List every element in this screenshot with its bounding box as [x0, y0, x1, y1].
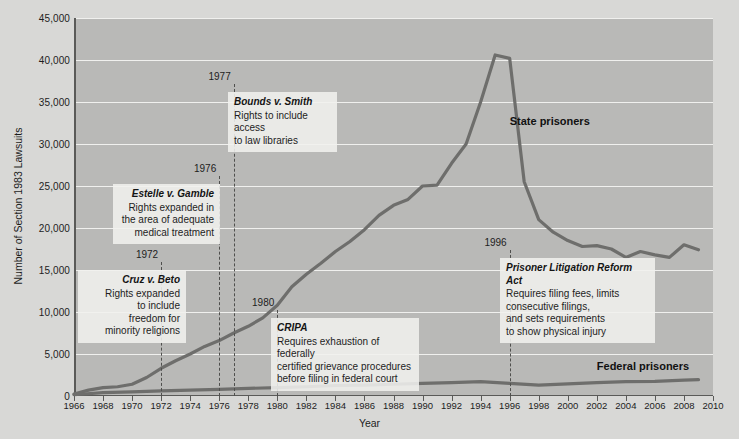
x-axis-tick-label: 1998 [528, 400, 549, 411]
event-callout-body-line: to include [84, 300, 180, 313]
x-axis-tick [713, 396, 714, 401]
y-axis-tick-label: 20,000 [39, 223, 70, 234]
x-axis-tick-label: 1982 [296, 400, 317, 411]
x-axis-tick-label: 1980 [267, 400, 288, 411]
x-axis-tick-label: 1994 [470, 400, 491, 411]
x-axis-tick [655, 396, 656, 401]
y-axis-tick-label: 10,000 [39, 307, 70, 318]
x-axis-tick-label: 2000 [557, 400, 578, 411]
x-axis-title: Year [0, 417, 739, 429]
x-axis-tick [248, 396, 249, 401]
x-axis-tick [626, 396, 627, 401]
y-axis-title: Number of Section 1983 Lawsuits [12, 106, 24, 306]
y-axis-tick-label: 30,000 [39, 139, 70, 150]
x-axis-tick [481, 396, 482, 401]
x-axis-tick [452, 396, 453, 401]
x-axis-tick [364, 396, 365, 401]
x-axis-tick [132, 396, 133, 401]
event-callout-body-line: to law libraries [234, 135, 331, 148]
event-callout-body-line: to show physical injury [506, 326, 649, 339]
x-axis-tick [161, 396, 162, 401]
event-callout-body-line: minority religions [84, 325, 180, 338]
event-callout-body-line: consecutive filings, [506, 301, 649, 314]
event-callout-body-line: Requires exhaustion of federally [277, 336, 413, 361]
event-callout-body-line: Requires filing fees, limits [506, 288, 649, 301]
x-axis-tick [190, 396, 191, 401]
x-axis-tick [394, 396, 395, 401]
chart-container: 05,00010,00015,00020,00025,00030,00035,0… [0, 0, 739, 439]
event-callout-body-line: freedom for [84, 313, 180, 326]
event-callout-body-line: certified grievance procedures [277, 361, 413, 374]
event-callout-body-line: Rights to include access [234, 110, 331, 135]
event-year-label: 1980 [252, 297, 277, 308]
x-axis-tick-label: 2004 [615, 400, 636, 411]
event-callout-body-line: medical treatment [119, 227, 214, 240]
x-axis-tick-label: 1970 [122, 400, 143, 411]
event-callout-title: Cruz v. Beto [84, 274, 180, 287]
event-callout-body-line: the area of adequate [119, 214, 214, 227]
event-year-label: 1976 [194, 163, 219, 174]
x-axis-tick-label: 1974 [180, 400, 201, 411]
x-axis-tick [423, 396, 424, 401]
y-axis-tick-label: 25,000 [39, 181, 70, 192]
event-callout: Cruz v. BetoRights expandedto includefre… [78, 270, 186, 343]
event-callout-title: Prisoner Litigation Reform Act [506, 262, 649, 287]
event-year-label: 1996 [484, 237, 509, 248]
event-callout-title: CRIPA [277, 322, 413, 335]
y-axis-tick-label: 5,000 [44, 349, 70, 360]
x-axis-tick [335, 396, 336, 401]
y-axis-tick-label: 15,000 [39, 265, 70, 276]
x-axis-tick [277, 396, 278, 401]
x-axis-tick-label: 2006 [644, 400, 665, 411]
event-callout-body-line: Rights expanded [84, 288, 180, 301]
event-callout: Bounds v. SmithRights to include accesst… [228, 92, 337, 152]
x-axis-tick [74, 396, 75, 401]
x-axis-tick-label: 1984 [325, 400, 346, 411]
series-label-federal-prisoners: Federal prisoners [597, 360, 689, 372]
event-callout-title: Estelle v. Gamble [119, 188, 214, 201]
series-label-state-prisoners: State prisoners [510, 115, 590, 127]
event-year-label: 1977 [209, 71, 234, 82]
y-axis-labels: 05,00010,00015,00020,00025,00030,00035,0… [0, 0, 70, 439]
x-axis-tick [510, 396, 511, 401]
x-axis-tick-label: 1986 [354, 400, 375, 411]
event-callout: Prisoner Litigation Reform ActRequires f… [500, 258, 655, 343]
y-axis-tick-label: 40,000 [39, 55, 70, 66]
x-axis-tick [597, 396, 598, 401]
event-callout-body-line: Rights expanded in [119, 202, 214, 215]
x-axis-tick-label: 1966 [63, 400, 84, 411]
event-callout-title: Bounds v. Smith [234, 96, 331, 109]
event-callout: CRIPARequires exhaustion of federallycer… [271, 318, 419, 391]
x-axis-tick-label: 2010 [702, 400, 723, 411]
x-axis-tick [539, 396, 540, 401]
x-axis-tick-label: 2008 [673, 400, 694, 411]
event-callout-body-line: and sets requirements [506, 313, 649, 326]
x-axis-tick [684, 396, 685, 401]
event-year-label: 1972 [136, 249, 161, 260]
y-axis-tick-label: 35,000 [39, 97, 70, 108]
event-callout: Estelle v. GambleRights expanded inthe a… [113, 184, 220, 244]
x-axis-tick-label: 1990 [412, 400, 433, 411]
x-axis-tick-label: 1976 [209, 400, 230, 411]
x-axis-tick-label: 1968 [92, 400, 113, 411]
x-axis-tick [103, 396, 104, 401]
x-axis-tick-label: 2002 [586, 400, 607, 411]
x-axis-tick-label: 1988 [383, 400, 404, 411]
event-callout-body-line: before filing in federal court [277, 373, 413, 386]
x-axis-tick-label: 1996 [499, 400, 520, 411]
x-axis-tick [219, 396, 220, 401]
x-axis-tick [306, 396, 307, 401]
x-axis-tick-label: 1972 [151, 400, 172, 411]
x-axis-tick-label: 1992 [441, 400, 462, 411]
y-axis-tick-label: 45,000 [39, 13, 70, 24]
x-axis-tick-label: 1978 [238, 400, 259, 411]
x-axis-tick [568, 396, 569, 401]
